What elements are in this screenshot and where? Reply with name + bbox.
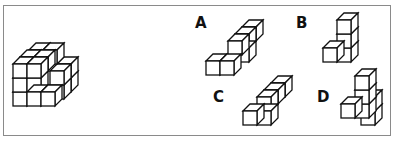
option-a-figure[interactable]	[206, 20, 263, 75]
option-b-figure[interactable]	[323, 13, 358, 62]
option-d-figure[interactable]	[341, 69, 382, 125]
main-cube-figure	[13, 43, 78, 106]
option-c-figure[interactable]	[243, 76, 292, 125]
option-c-label: C	[213, 88, 224, 106]
option-d-label: D	[317, 88, 329, 106]
option-b-label: B	[296, 14, 307, 32]
option-a-label: A	[195, 14, 207, 32]
